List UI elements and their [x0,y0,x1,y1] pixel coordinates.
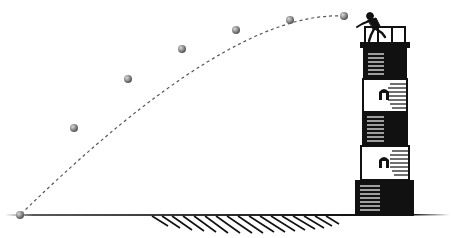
balls [16,12,348,219]
ball-icon [16,211,24,219]
ball-icon [70,124,78,132]
ground [5,214,450,233]
ground-hatching [152,216,339,233]
ball-icon [178,45,186,53]
projectile-diagram [0,0,454,238]
ball-icon [340,12,348,20]
lighthouse-icon [355,27,414,216]
ball-icon [124,75,132,83]
ball-icon [286,16,294,24]
ball-icon [232,26,240,34]
